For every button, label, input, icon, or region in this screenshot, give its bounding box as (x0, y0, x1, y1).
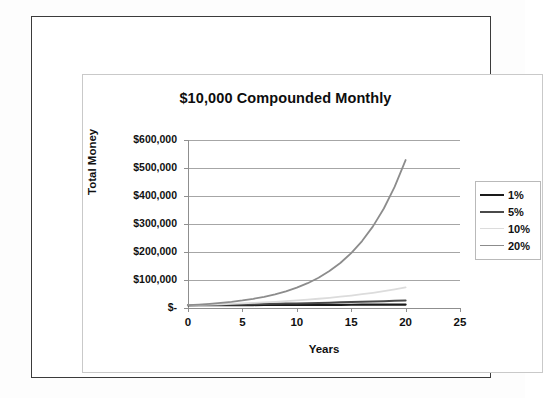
x-axis-tick-label: 10 (277, 316, 317, 328)
legend-swatch-icon (480, 245, 504, 246)
y-axis-tick-label: $- (87, 301, 177, 313)
chart-legend: 1%5%10%20% (475, 181, 541, 260)
legend-label: 20% (508, 240, 530, 252)
x-axis-tick-label: 0 (168, 316, 208, 328)
page-border: $10,000 Compounded Monthly Total Money $… (31, 16, 491, 378)
y-axis-tick-label: $200,000 (87, 245, 177, 257)
x-axis-title: Years (188, 343, 460, 355)
x-axis-tick-label: 20 (386, 316, 426, 328)
series-lines (188, 140, 460, 310)
chart-container: $10,000 Compounded Monthly Total Money $… (82, 74, 543, 373)
chart-title: $10,000 Compounded Monthly (83, 90, 488, 106)
legend-label: 5% (508, 206, 524, 218)
y-axis-tick-label: $600,000 (87, 133, 177, 145)
x-axis-tick-label: 25 (440, 316, 480, 328)
x-axis-tick (460, 308, 461, 312)
x-axis-tick-label: 5 (222, 316, 262, 328)
y-axis-tick-label: $500,000 (87, 161, 177, 173)
legend-item[interactable]: 20% (480, 237, 537, 254)
legend-item[interactable]: 1% (480, 186, 537, 203)
legend-swatch-icon (480, 228, 504, 229)
legend-label: 1% (508, 189, 524, 201)
y-axis-tick-label: $400,000 (87, 189, 177, 201)
plot-area: $-$100,000$200,000$300,000$400,000$500,0… (188, 140, 460, 308)
legend-swatch-icon (480, 211, 504, 213)
x-axis-tick-label: 15 (331, 316, 371, 328)
legend-item[interactable]: 10% (480, 220, 537, 237)
legend-swatch-icon (480, 194, 504, 196)
legend-item[interactable]: 5% (480, 203, 537, 220)
y-axis-tick-label: $300,000 (87, 217, 177, 229)
y-axis-tick-label: $100,000 (87, 273, 177, 285)
legend-label: 10% (508, 223, 530, 235)
series-line-20pct (188, 160, 406, 305)
